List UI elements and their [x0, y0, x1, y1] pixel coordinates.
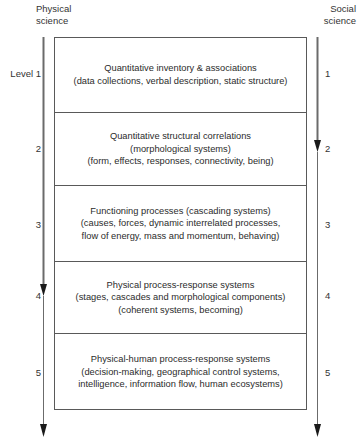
level-row: Quantitative structural correlations (mo… [55, 113, 306, 187]
diagram-canvas: Physical science Social science Quantita… [0, 0, 361, 441]
right-axis-arrowhead-bottom [314, 424, 321, 437]
levels-table: Quantitative inventory & associations (d… [54, 37, 307, 410]
level-label-left-1: Level 1 [10, 68, 41, 79]
level-row: Functioning processes (cascading systems… [55, 186, 306, 262]
level-5-description: Physical-human process-response systems … [78, 353, 283, 390]
level-1-description: Quantitative inventory & associations (d… [74, 62, 288, 87]
level-row: Quantitative inventory & associations (d… [55, 38, 306, 113]
level-label-left-3: 3 [36, 219, 41, 230]
right-axis-arrowhead-level2 [314, 140, 321, 152]
level-label-right-3: 3 [325, 219, 330, 230]
level-row: Physical process-response systems (stage… [55, 262, 306, 335]
level-3-description: Functioning processes (cascading systems… [81, 205, 280, 242]
column-header-physical-science: Physical science [36, 3, 71, 27]
level-label-left-4: 4 [36, 290, 41, 301]
left-axis-arrowhead-level4 [40, 284, 47, 296]
level-label-left-2: 2 [36, 143, 41, 154]
level-label-right-4: 4 [325, 290, 330, 301]
level-row: Physical-human process-response systems … [55, 334, 306, 409]
level-label-left-5: 5 [36, 367, 41, 378]
level-4-description: Physical process-response systems (stage… [76, 279, 286, 316]
level-label-right-5: 5 [325, 367, 330, 378]
level-label-right-2: 2 [325, 143, 330, 154]
level-2-description: Quantitative structural correlations (mo… [87, 130, 273, 167]
left-axis-arrowhead-bottom [40, 424, 47, 437]
level-label-right-1: 1 [325, 68, 330, 79]
column-header-social-science: Social science [324, 3, 356, 27]
